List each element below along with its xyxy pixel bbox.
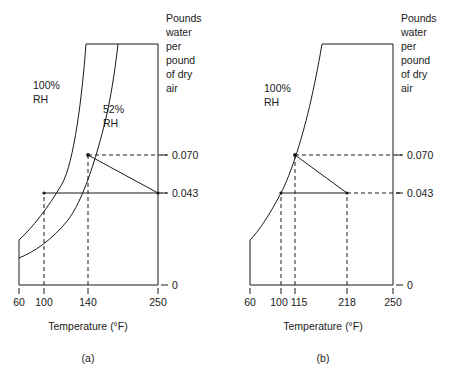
y-tick-label-0043-b: 0.043 bbox=[407, 187, 433, 199]
y-axis-title-line-1-a: Pounds bbox=[166, 12, 202, 24]
x-tick-label-60-a: 60 bbox=[13, 296, 25, 308]
curve-label-100-rh-a: 100% RH bbox=[33, 79, 60, 105]
chart-panel-b: 0.070 0.043 0 Pounds water per pound of … bbox=[225, 0, 449, 372]
x-ticks-a: 60 100 140 250 bbox=[13, 288, 167, 308]
y-axis-title-line-2-a: water bbox=[165, 26, 192, 38]
state-point-100f-a bbox=[42, 191, 45, 194]
curve-label-52-rh-line-1-a: 52% bbox=[103, 103, 124, 115]
y-tick-label-0070-a: 0.070 bbox=[172, 149, 198, 161]
y-axis-title-b: Pounds water per pound of dry air bbox=[400, 12, 437, 94]
y-axis-title-line-3-a: per bbox=[166, 40, 182, 52]
curve-label-100-rh-line-1-a: 100% bbox=[33, 79, 60, 91]
y-axis-title-line-2-b: water bbox=[400, 26, 427, 38]
chart-b-axes bbox=[250, 44, 393, 285]
x-ticks-b: 60 100 115 218 250 bbox=[244, 288, 402, 308]
y-tick-label-0-a: 0 bbox=[172, 279, 178, 291]
curve-100-rh-b bbox=[250, 44, 322, 240]
state-point-250f-a bbox=[156, 191, 159, 194]
y-axis-title-line-6-b: air bbox=[401, 82, 413, 94]
psychrometric-figure: 0.070 0.043 0 Pounds water per pound of … bbox=[0, 0, 449, 372]
x-tick-label-218-b: 218 bbox=[338, 296, 356, 308]
y-axis-title-line-4-b: pound bbox=[401, 54, 430, 66]
curve-label-52-rh-line-2-a: RH bbox=[103, 117, 118, 129]
x-tick-label-100-a: 100 bbox=[35, 296, 53, 308]
y-axis-title-line-4-a: pound bbox=[166, 54, 195, 66]
state-point-140f-a bbox=[86, 153, 90, 157]
x-axis-title-a: Temperature (°F) bbox=[48, 320, 127, 332]
x-tick-label-115-b: 115 bbox=[291, 296, 308, 308]
x-tick-label-60-b: 60 bbox=[244, 296, 256, 308]
panel-caption-a: (a) bbox=[82, 352, 95, 364]
y-ticks-a: 0.070 0.043 0 bbox=[161, 149, 198, 291]
x-tick-label-250-a: 250 bbox=[149, 296, 167, 308]
y-ticks-b: 0.070 0.043 0 bbox=[396, 149, 433, 291]
curve-label-100-rh-line-1-b: 100% bbox=[264, 82, 291, 94]
process-line-cooling-a bbox=[88, 155, 158, 193]
y-axis-title-line-3-b: per bbox=[401, 40, 417, 52]
x-tick-label-250-b: 250 bbox=[384, 296, 402, 308]
x-tick-label-100-b: 100 bbox=[270, 296, 288, 308]
y-tick-label-0-b: 0 bbox=[407, 279, 413, 291]
state-point-115f-b bbox=[293, 153, 297, 157]
curve-label-100-rh-b: 100% RH bbox=[264, 82, 291, 108]
y-tick-label-0070-b: 0.070 bbox=[407, 149, 433, 161]
y-axis-title-line-5-a: of dry bbox=[166, 68, 193, 80]
x-axis-title-b: Temperature (°F) bbox=[283, 320, 362, 332]
panel-caption-b: (b) bbox=[317, 352, 330, 364]
chart-panel-a: 0.070 0.043 0 Pounds water per pound of … bbox=[0, 0, 224, 372]
curve-label-100-rh-line-2-b: RH bbox=[264, 96, 279, 108]
state-point-100f-b bbox=[279, 191, 282, 194]
y-axis-title-line-5-b: of dry bbox=[401, 68, 428, 80]
chart-a-svg: 0.070 0.043 0 Pounds water per pound of … bbox=[0, 0, 224, 372]
curve-100-rh-a bbox=[19, 44, 86, 240]
state-point-218f-b bbox=[345, 191, 348, 194]
y-axis-title-line-6-a: air bbox=[166, 82, 178, 94]
x-tick-label-140-a: 140 bbox=[79, 296, 97, 308]
y-axis-title-line-1-b: Pounds bbox=[401, 12, 437, 24]
process-line-cooling-b bbox=[295, 155, 347, 193]
curve-label-100-rh-line-2-a: RH bbox=[33, 93, 48, 105]
y-tick-label-0043-a: 0.043 bbox=[172, 187, 198, 199]
chart-b-svg: 0.070 0.043 0 Pounds water per pound of … bbox=[225, 0, 449, 372]
y-axis-title-a: Pounds water per pound of dry air bbox=[165, 12, 202, 94]
curve-52-rh-a bbox=[19, 44, 118, 258]
